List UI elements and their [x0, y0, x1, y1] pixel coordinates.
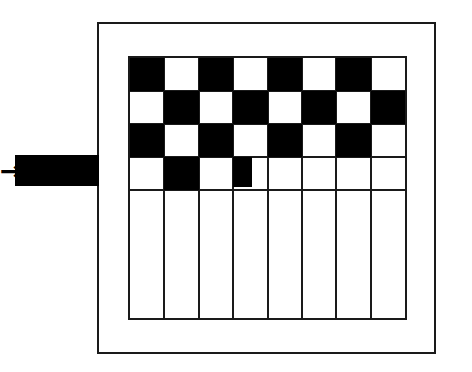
partial-black-block	[233, 157, 252, 187]
grid-cell-black	[130, 124, 164, 157]
grid-cell-black	[130, 58, 164, 91]
figure-root: →	[0, 0, 472, 372]
input-feed-bar	[15, 155, 99, 186]
grid-cell-black	[268, 124, 302, 157]
grid-cell-black	[336, 58, 370, 91]
grid-cell-black	[302, 91, 336, 124]
grid-cell-black	[164, 91, 198, 124]
grid-cell-black	[371, 91, 405, 124]
arrow-right-icon: →	[0, 158, 22, 184]
grid-cell-black	[199, 58, 233, 91]
grid-cell-black	[268, 58, 302, 91]
grid-cell-black	[233, 91, 267, 124]
grid-cell-black	[199, 124, 233, 157]
grid-cell-black	[164, 157, 198, 190]
grid-cell-black	[336, 124, 370, 157]
